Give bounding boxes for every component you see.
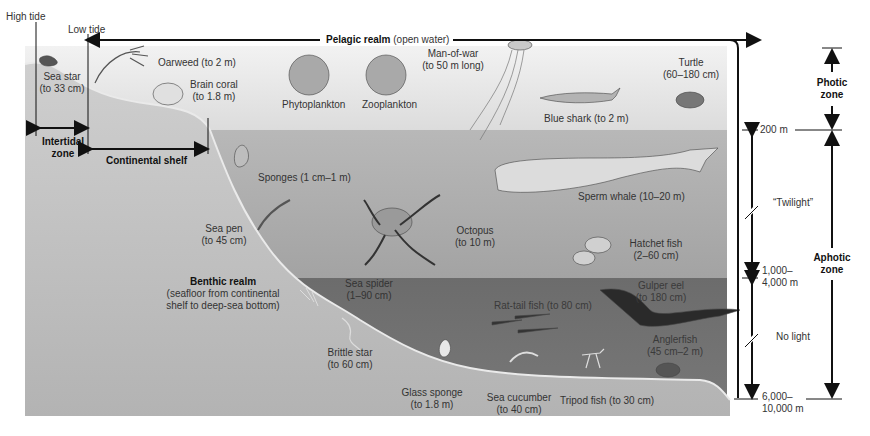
sperm-whale-label: Sperm whale (10–20 m)	[578, 191, 685, 203]
pelagic-realm-subtitle: (open water)	[393, 34, 449, 45]
photic-zone-label: Photic zone	[808, 77, 856, 101]
phytoplankton-label: Phytoplankton	[282, 99, 345, 111]
high-tide-label: High tide	[6, 11, 45, 23]
anglerfish-label: Anglerfish (45 cm–2 m)	[642, 334, 708, 358]
pelagic-realm-label: Pelagic realm (open water)	[322, 34, 453, 46]
anglerfish-icon	[656, 363, 680, 377]
pelagic-realm-title: Pelagic realm	[326, 34, 390, 45]
brain-coral-label: Brain coral (to 1.8 m)	[190, 79, 238, 103]
gulper-eel-label: Gulper eel (to 180 cm)	[628, 280, 694, 304]
rat-tail-fish-label: Rat-tail fish (to 80 cm)	[494, 300, 592, 312]
tripod-fish-label: Tripod fish (to 30 cm)	[560, 395, 654, 407]
glass-sponge-label: Glass sponge (to 1.8 m)	[400, 387, 464, 411]
hatchet-fish-icon-2	[573, 251, 595, 265]
benthic-realm-title: Benthic realm	[164, 276, 282, 288]
brittle-star-label: Brittle star (to 60 cm)	[320, 347, 380, 371]
intertidal-zone-label: Intertidal zone	[40, 136, 86, 160]
hatchet-fish-label: Hatchet fish (2–60 cm)	[628, 238, 684, 262]
turtle-label: Turtle (60–180 cm)	[660, 57, 722, 81]
brain-coral-icon	[153, 83, 183, 105]
aphotic-zone-label: Aphotic zone	[806, 252, 858, 276]
continental-shelf-label: Continental shelf	[106, 155, 187, 167]
turtle-icon	[676, 92, 704, 108]
man-of-war-icon	[508, 40, 532, 50]
sea-pen-label: Sea pen (to 45 cm)	[200, 223, 248, 247]
depth-200-label: 200 m	[760, 124, 788, 136]
oarweed-label: Oarweed (to 2 m)	[158, 57, 236, 69]
zooplankton-label: Zooplankton	[362, 99, 417, 111]
sponges-label: Sponges (1 cm–1 m)	[258, 172, 351, 184]
twilight-label: “Twilight”	[773, 197, 813, 209]
sea-star-label: Sea star (to 33 cm)	[36, 71, 88, 95]
octopus-label: Octopus (to 10 m)	[450, 225, 500, 249]
depth-6000-10000-label: 6,000– 10,000 m	[762, 391, 804, 415]
marine-zones-diagram: High tide Low tide Pelagic realm (open w…	[0, 0, 870, 436]
sea-spider-label: Sea spider (1–90 cm)	[344, 278, 394, 302]
sea-cucumber-label: Sea cucumber (to 40 cm)	[484, 392, 554, 416]
low-tide-label: Low tide	[68, 24, 105, 36]
zooplankton-icon	[366, 55, 406, 95]
hatchet-fish-icon	[585, 237, 611, 253]
pelagic-bracket	[730, 40, 738, 398]
benthic-realm-label: Benthic realm (seafloor from continental…	[164, 276, 282, 312]
no-light-label: No light	[776, 331, 810, 343]
man-of-war-label: Man-of-war (to 50 m long)	[418, 48, 488, 72]
blue-shark-label: Blue shark (to 2 m)	[544, 113, 628, 125]
phytoplankton-icon	[289, 55, 329, 95]
depth-1000-4000-label: 1,000– 4,000 m	[762, 265, 798, 289]
